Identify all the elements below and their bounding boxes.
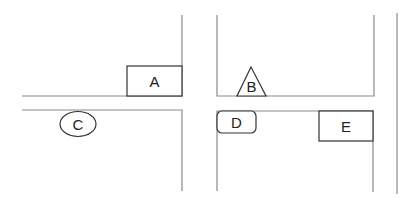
landmark-a[interactable]: A [127, 66, 182, 96]
landmark-b-label: B [246, 78, 256, 95]
road-edge-top-middle [217, 15, 374, 96]
landmark-e-label: E [341, 118, 351, 135]
road-edge-bottom-left [22, 110, 182, 191]
landmark-d[interactable]: D [217, 111, 256, 133]
landmark-a-label: A [149, 73, 159, 90]
landmark-c-label: C [73, 116, 84, 133]
landmark-e[interactable]: E [319, 111, 373, 141]
landmark-c[interactable]: C [60, 112, 96, 137]
street-diagram: A B C D E [0, 0, 412, 202]
landmark-d-label: D [231, 114, 242, 131]
landmark-b[interactable]: B [237, 67, 266, 96]
